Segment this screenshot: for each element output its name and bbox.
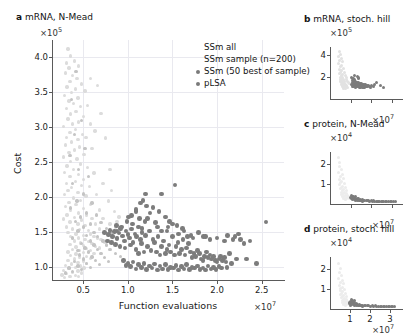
panel-a-point bbox=[77, 236, 80, 239]
panel-c-x-tick bbox=[371, 205, 372, 208]
panel-d-letter: d bbox=[304, 224, 310, 234]
panel-a-point bbox=[71, 182, 74, 185]
panel-a-point bbox=[82, 207, 85, 210]
panel-a-point bbox=[96, 84, 99, 87]
panel-a-point bbox=[142, 250, 147, 255]
panel-a-point bbox=[86, 166, 89, 169]
panel-a-point bbox=[144, 267, 149, 272]
panel-a-point bbox=[63, 94, 66, 97]
panel-a-point bbox=[208, 237, 213, 242]
panel-b-title: b mRNA, stoch. hill bbox=[304, 14, 390, 24]
panel-b-point bbox=[341, 60, 344, 63]
panel-a-point bbox=[176, 240, 181, 245]
panel-d-point bbox=[339, 267, 342, 270]
panel-a-point bbox=[131, 260, 136, 265]
panel-a-point bbox=[66, 189, 69, 192]
panel-a-point bbox=[88, 185, 91, 188]
panel-c-point bbox=[354, 195, 357, 198]
panel-a-point bbox=[149, 248, 154, 253]
panel-a-point bbox=[145, 216, 150, 221]
panel-a-point bbox=[151, 205, 156, 210]
panel-a-point bbox=[73, 133, 76, 136]
panel-a-point bbox=[99, 252, 102, 255]
panel-a-x-tick bbox=[172, 281, 173, 284]
panel-a-point bbox=[122, 239, 127, 244]
panel-a-point bbox=[238, 237, 243, 242]
panel-b-point bbox=[373, 83, 376, 86]
panel-a-point bbox=[121, 258, 126, 263]
panel-a-point bbox=[68, 275, 71, 278]
panel-a-point bbox=[66, 117, 69, 120]
panel-a-point bbox=[160, 267, 165, 272]
panel-a-point bbox=[242, 241, 247, 246]
panel-a-point bbox=[186, 241, 191, 246]
panel-a-point bbox=[67, 266, 70, 269]
panel-a-point bbox=[68, 154, 71, 157]
panel-a-point bbox=[163, 251, 168, 256]
panel-a-point bbox=[94, 259, 97, 262]
panel-a-point bbox=[95, 213, 98, 216]
panel-c-point bbox=[340, 168, 343, 171]
legend-label: SSm (50 best of sample) bbox=[204, 66, 310, 76]
panel-b-point bbox=[369, 86, 372, 89]
panel-a-point bbox=[118, 244, 123, 249]
panel-a-point bbox=[90, 201, 93, 204]
panel-c-y-tick bbox=[327, 184, 330, 185]
panel-a-point bbox=[167, 219, 172, 224]
panel-a-point bbox=[248, 239, 253, 244]
panel-c-point bbox=[338, 161, 341, 164]
panel-a-point bbox=[113, 210, 116, 213]
panel-a-point bbox=[98, 227, 101, 230]
panel-a-point bbox=[62, 217, 65, 220]
panel-a-point bbox=[136, 251, 141, 256]
panel-a-y-ticklabel: 1.0 bbox=[18, 262, 48, 272]
panel-a-point bbox=[157, 209, 162, 214]
panel-d-point bbox=[337, 262, 340, 265]
panel-a-point bbox=[68, 80, 71, 83]
panel-a-point bbox=[156, 234, 161, 239]
panel-a-point bbox=[150, 266, 155, 271]
panel-a-point bbox=[92, 231, 95, 234]
panel-a-point bbox=[192, 266, 197, 271]
panel-a-point bbox=[65, 225, 68, 228]
panel-a-point bbox=[233, 234, 238, 239]
panel-a-point bbox=[147, 229, 152, 234]
panel-a-point bbox=[187, 267, 192, 272]
panel-a-point bbox=[176, 268, 181, 273]
panel-a-point bbox=[155, 268, 160, 273]
panel-b-y-tick bbox=[327, 55, 330, 56]
panel-b-x-tick bbox=[371, 100, 372, 103]
panel-b-point bbox=[382, 86, 385, 89]
panel-a-point bbox=[87, 250, 90, 253]
panel-a-point bbox=[185, 234, 190, 239]
panel-a-point bbox=[166, 267, 171, 272]
panel-a-point bbox=[64, 205, 67, 208]
panel-c-title: c protein, N-Mead bbox=[304, 119, 384, 129]
panel-a-point bbox=[82, 251, 85, 254]
panel-a-point bbox=[104, 136, 107, 139]
panel-a-point bbox=[95, 193, 98, 196]
panel-a-point bbox=[198, 267, 203, 272]
panel-a-point bbox=[175, 223, 180, 228]
panel-a-point bbox=[225, 233, 230, 238]
panel-a-point bbox=[159, 244, 164, 249]
panel-a-point bbox=[143, 192, 148, 197]
panel-c-letter: c bbox=[304, 119, 309, 129]
panel-a-point bbox=[108, 222, 111, 225]
panel-a-point bbox=[107, 199, 110, 202]
panel-a-point bbox=[66, 259, 69, 262]
panel-a-x-ticklabel: 1.0 bbox=[113, 285, 143, 295]
panel-d-point bbox=[342, 282, 345, 285]
panel-a-point bbox=[191, 236, 196, 241]
panel-a-point bbox=[76, 222, 79, 225]
panel-a-y-tick bbox=[49, 92, 52, 93]
panel-a-point bbox=[90, 255, 93, 258]
panel-a-point bbox=[74, 70, 77, 73]
panel-a-point bbox=[85, 234, 88, 237]
panel-a-point bbox=[79, 105, 82, 108]
panel-c-y-ticklabel: 1 bbox=[296, 179, 326, 189]
panel-a-point bbox=[65, 61, 68, 64]
panel-a-point bbox=[64, 71, 67, 74]
panel-a-point bbox=[176, 232, 181, 237]
